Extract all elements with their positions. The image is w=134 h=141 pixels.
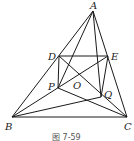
segments — [12, 11, 127, 117]
label-B: B — [4, 121, 12, 132]
segment-CP — [58, 88, 127, 117]
label-O: O — [73, 80, 81, 91]
figure-caption: 图 7-59 — [52, 133, 81, 141]
label-C: C — [124, 121, 132, 132]
label-P: P — [47, 81, 55, 92]
segment-DP — [58, 56, 59, 88]
label-Q: Q — [104, 89, 112, 100]
geometry-figure: A B C D E P O Q 图 7-59 — [0, 0, 134, 141]
label-E: E — [110, 51, 119, 62]
label-D: D — [47, 51, 56, 62]
label-A: A — [89, 0, 97, 11]
